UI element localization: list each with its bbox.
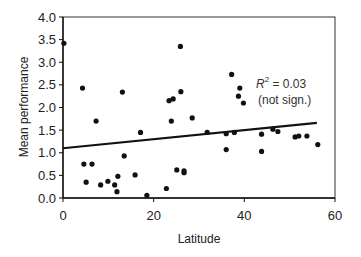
- data-point: [304, 133, 309, 138]
- significance-annotation: (not sign.): [258, 93, 311, 107]
- data-point: [296, 133, 301, 138]
- data-point: [93, 118, 98, 123]
- y-tick-label: 1.0: [38, 145, 56, 160]
- data-point: [181, 168, 186, 173]
- scatter-chart: 0.00.51.01.52.02.53.03.54.0 0204060 Lati…: [0, 0, 361, 257]
- y-tick-label: 1.5: [38, 123, 56, 138]
- data-point: [190, 115, 195, 120]
- data-point: [144, 193, 149, 198]
- y-axis: 0.00.51.01.52.02.53.03.54.0: [38, 10, 63, 206]
- r-squared-annotation: R2 = 0.03: [256, 75, 306, 91]
- plot-border: [63, 17, 335, 198]
- data-point: [61, 41, 66, 46]
- data-point: [115, 174, 120, 179]
- data-point: [89, 161, 94, 166]
- x-axis-title: Latitude: [178, 232, 221, 246]
- data-point: [171, 96, 176, 101]
- data-point: [224, 147, 229, 152]
- r-squared-value: = 0.03: [269, 77, 306, 91]
- data-point: [132, 172, 137, 177]
- x-tick-label: 20: [146, 208, 160, 223]
- data-point: [229, 72, 234, 77]
- y-axis-title: Mean performance: [17, 56, 31, 157]
- data-point: [174, 167, 179, 172]
- data-point: [315, 142, 320, 147]
- plot-area: [63, 17, 335, 198]
- data-point: [81, 161, 86, 166]
- data-point: [164, 186, 169, 191]
- y-tick-label: 0.5: [38, 168, 56, 183]
- y-tick-label: 2.0: [38, 100, 56, 115]
- data-point: [84, 180, 89, 185]
- data-point: [112, 182, 117, 187]
- data-point: [178, 44, 183, 49]
- data-point: [122, 153, 127, 158]
- x-axis: 0204060: [59, 198, 342, 223]
- y-tick-label: 3.0: [38, 55, 56, 70]
- y-tick-label: 3.5: [38, 32, 56, 47]
- data-point: [259, 149, 264, 154]
- data-point: [80, 85, 85, 90]
- data-point: [237, 85, 242, 90]
- data-point: [98, 182, 103, 187]
- data-point: [259, 132, 264, 137]
- trend-line: [63, 123, 317, 148]
- data-point: [241, 100, 246, 105]
- data-point: [114, 189, 119, 194]
- data-point: [169, 118, 174, 123]
- x-tick-label: 40: [237, 208, 251, 223]
- data-point: [138, 130, 143, 135]
- data-points: [61, 41, 320, 198]
- x-tick-label: 60: [328, 208, 342, 223]
- y-tick-label: 2.5: [38, 77, 56, 92]
- regression-line: [63, 123, 317, 148]
- r-symbol: R: [256, 77, 265, 91]
- data-point: [275, 129, 280, 134]
- y-tick-label: 4.0: [38, 10, 56, 25]
- data-point: [120, 90, 125, 95]
- y-tick-label: 0.0: [38, 191, 56, 206]
- data-point: [105, 179, 110, 184]
- x-tick-label: 0: [59, 208, 66, 223]
- data-point: [236, 94, 241, 99]
- data-point: [178, 89, 183, 94]
